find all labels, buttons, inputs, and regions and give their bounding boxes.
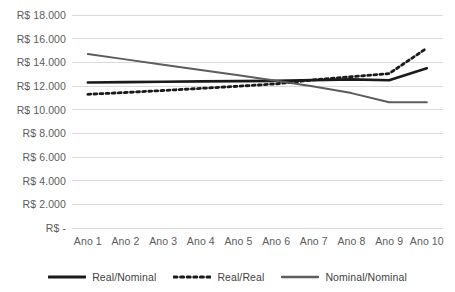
x-axis-tick-label: Ano 3: [149, 236, 177, 247]
x-axis-tick-label: Ano 5: [224, 236, 252, 247]
x-axis-tick-label: Ano 1: [74, 236, 102, 247]
x-axis-tick-label: Ano 2: [111, 236, 139, 247]
legend-swatch-solid: [281, 271, 319, 283]
x-axis-tick-label: Ano 8: [337, 236, 365, 247]
x-axis-tick-label: Ano 4: [187, 236, 215, 247]
legend-swatch-solid: [48, 271, 86, 283]
legend-item[interactable]: Real/Nominal: [48, 271, 156, 283]
legend-item[interactable]: Nominal/Nominal: [281, 271, 406, 283]
legend-label: Real/Real: [217, 272, 264, 283]
line-chart: R$ -R$ 2.000R$ 4.000R$ 6.000R$ 8.000R$ 1…: [0, 0, 455, 292]
x-axis-tick-label: Ano 6: [262, 236, 290, 247]
legend-label: Nominal/Nominal: [325, 272, 406, 283]
chart-legend: Real/NominalReal/RealNominal/Nominal: [0, 262, 455, 292]
series-line-nominal-nominal: [88, 54, 427, 102]
legend-swatch-dotted: [173, 271, 211, 283]
x-axis-tick-label: Ano 7: [300, 236, 328, 247]
legend-label: Real/Nominal: [92, 272, 156, 283]
gridlines: [72, 15, 443, 228]
plot-svg: [0, 0, 455, 258]
plot-area: R$ -R$ 2.000R$ 4.000R$ 6.000R$ 8.000R$ 1…: [0, 0, 455, 258]
legend-item[interactable]: Real/Real: [173, 271, 264, 283]
x-axis-tick-label: Ano 10: [410, 236, 444, 247]
series-line-real-real: [88, 48, 427, 94]
series-lines: [88, 48, 427, 102]
x-axis-tick-label: Ano 9: [375, 236, 403, 247]
